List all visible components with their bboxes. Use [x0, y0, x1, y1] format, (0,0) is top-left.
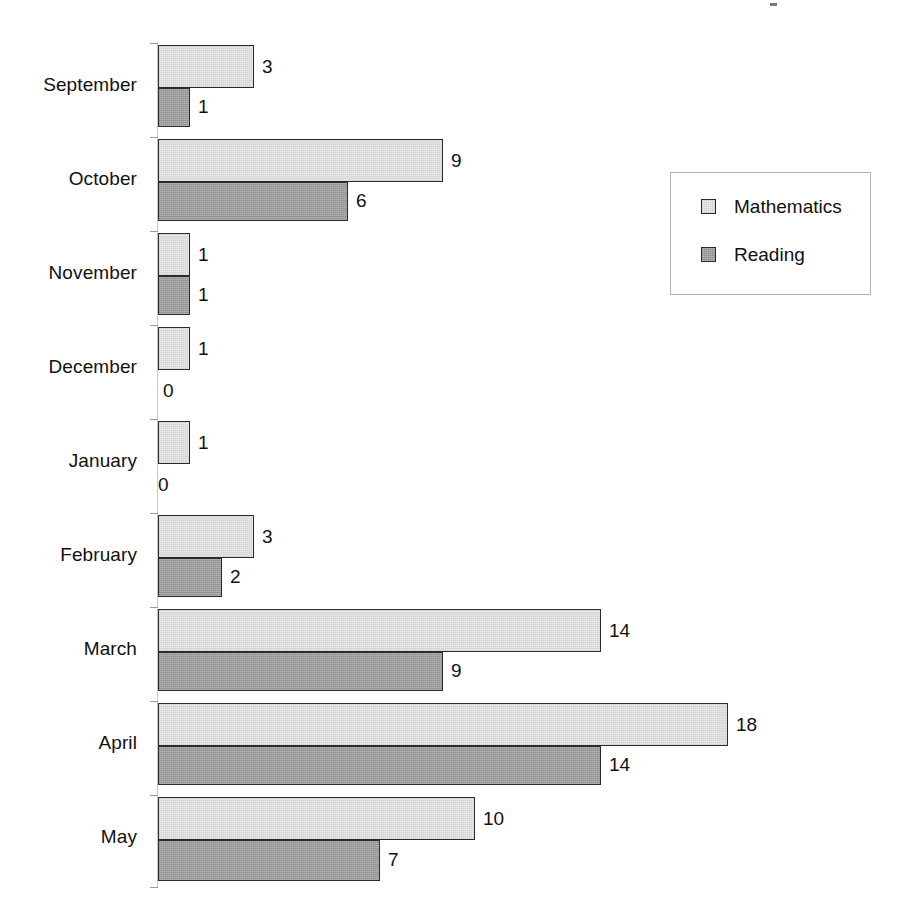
legend-label-mathematics: Mathematics — [734, 197, 842, 216]
bar-chart: September 3 1 October 9 6 November 1 1 D… — [0, 0, 907, 922]
bar-value-reading: 6 — [356, 191, 367, 210]
legend-label-reading: Reading — [734, 245, 805, 264]
bar-value-mathematics: 18 — [736, 715, 757, 734]
bar-mathematics — [158, 797, 475, 840]
axis-tick — [150, 887, 158, 888]
bar-value-reading: 14 — [609, 755, 630, 774]
category-label: December — [0, 357, 137, 376]
bar-mathematics — [158, 139, 443, 182]
axis-tick — [150, 43, 158, 44]
axis-tick — [150, 795, 158, 796]
bar-mathematics — [158, 421, 190, 464]
legend-swatch-reading-icon — [701, 247, 716, 262]
bar-value-mathematics: 14 — [609, 621, 630, 640]
axis-tick — [150, 137, 158, 138]
bar-reading — [158, 840, 380, 881]
bar-value-reading: 1 — [198, 97, 209, 116]
legend: Mathematics Reading — [670, 172, 871, 295]
bar-value-reading: 0 — [163, 381, 174, 400]
bar-value-reading: 9 — [451, 661, 462, 680]
bar-value-mathematics: 1 — [198, 245, 209, 264]
axis-tick — [150, 325, 158, 326]
bar-reading — [158, 182, 348, 221]
bar-reading — [158, 558, 222, 597]
bar-value-reading: 1 — [198, 285, 209, 304]
legend-swatch-mathematics-icon — [701, 199, 716, 214]
bar-reading — [158, 88, 190, 127]
bar-reading — [158, 652, 443, 691]
bar-value-mathematics: 1 — [198, 339, 209, 358]
category-label: April — [0, 733, 137, 752]
axis-tick — [150, 419, 158, 420]
bar-value-mathematics: 3 — [262, 57, 273, 76]
legend-item-mathematics: Mathematics — [701, 197, 842, 216]
bar-reading — [158, 746, 601, 785]
bar-mathematics — [158, 703, 728, 746]
bar-value-mathematics: 10 — [483, 809, 504, 828]
bar-reading — [158, 276, 190, 315]
bar-value-mathematics: 1 — [198, 433, 209, 452]
axis-tick — [150, 513, 158, 514]
category-label: November — [0, 263, 137, 282]
category-label: September — [0, 75, 137, 94]
bar-value-reading: 0 — [158, 475, 169, 494]
category-label: March — [0, 639, 137, 658]
axis-tick — [150, 701, 158, 702]
plot-area: September 3 1 October 9 6 November 1 1 D… — [0, 0, 907, 922]
bar-value-mathematics: 9 — [451, 151, 462, 170]
bar-value-mathematics: 3 — [262, 527, 273, 546]
bar-mathematics — [158, 233, 190, 276]
category-label: February — [0, 545, 137, 564]
bar-mathematics — [158, 45, 254, 88]
legend-item-reading: Reading — [701, 245, 805, 264]
category-label: October — [0, 169, 137, 188]
axis-tick — [150, 231, 158, 232]
category-label: May — [0, 827, 137, 846]
bar-mathematics — [158, 609, 601, 652]
bar-mathematics — [158, 327, 190, 370]
bar-value-reading: 7 — [388, 850, 399, 869]
axis-tick — [150, 607, 158, 608]
bar-mathematics — [158, 515, 254, 558]
category-label: January — [0, 451, 137, 470]
bar-value-reading: 2 — [230, 567, 241, 586]
